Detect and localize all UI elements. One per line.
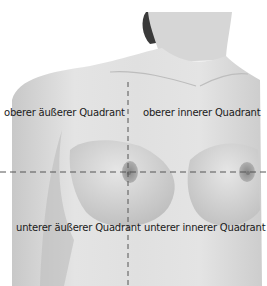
label-upper-inner-quadrant: oberer innerer Quadrant — [143, 107, 260, 118]
label-lower-inner-quadrant: unterer innerer Quadrant — [144, 222, 265, 233]
label-lower-outer-quadrant: unterer äußerer Quadrant — [16, 222, 141, 233]
right-breast — [188, 143, 260, 225]
torso-illustration — [0, 0, 267, 286]
breast-quadrant-diagram: oberer äußerer Quadrant oberer innerer Q… — [0, 0, 267, 286]
label-upper-outer-quadrant: oberer äußerer Quadrant — [4, 107, 125, 118]
